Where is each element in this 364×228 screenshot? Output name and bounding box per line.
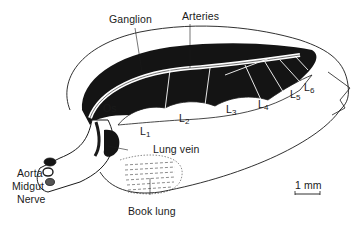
nerve-opening: [46, 179, 55, 186]
label-midgut: Midgut: [12, 181, 44, 192]
label-segment-1: L1: [140, 126, 151, 139]
midgut-opening: [43, 168, 53, 176]
label-nerve: Nerve: [17, 194, 46, 205]
label-aorta: Aorta: [17, 168, 43, 179]
label-os: Os: [103, 103, 117, 114]
label-segment-3: L3: [226, 104, 237, 117]
label-arteries: Arteries: [182, 11, 219, 22]
label-scale: 1 mm: [295, 180, 322, 191]
label-segment-6: L6: [304, 82, 315, 95]
label-segment-2: L2: [179, 113, 190, 126]
label-segment-4: L4: [258, 99, 269, 112]
label-book-lung: Book lung: [128, 206, 176, 217]
label-lung-vein: Lung vein: [153, 144, 199, 155]
label-segment-5: L5: [290, 89, 301, 102]
aorta-opening: [44, 158, 56, 166]
label-ganglion: Ganglion: [109, 14, 152, 25]
